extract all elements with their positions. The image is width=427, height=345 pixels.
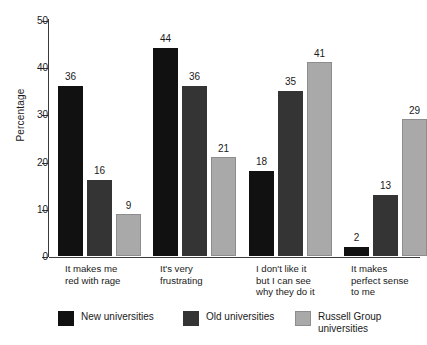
bar: 44 bbox=[153, 48, 178, 256]
bar: 16 bbox=[87, 180, 112, 256]
x-axis-category-label: It makes perfect sense to me bbox=[351, 263, 409, 298]
y-axis-tick-label: 0 bbox=[10, 252, 48, 262]
x-axis-category-label: I don't like it but I can see why they d… bbox=[256, 263, 315, 298]
legend-label: Old universities bbox=[206, 311, 274, 323]
bar: 13 bbox=[373, 195, 398, 256]
y-axis-tick-label: 50 bbox=[10, 16, 48, 26]
dark-gray-swatch bbox=[183, 311, 199, 326]
plot-area: 3644182163635139214129 bbox=[49, 19, 420, 256]
chart-legend: New universitiesOld universitiesRussell … bbox=[58, 311, 418, 341]
y-axis-tick-value: 10 bbox=[26, 205, 48, 215]
legend-item: Old universities bbox=[183, 311, 274, 326]
x-axis-category-label: It's very frustrating bbox=[160, 263, 203, 286]
bar-value-label: 2 bbox=[354, 233, 360, 243]
bar: 21 bbox=[211, 157, 236, 256]
bar-value-label: 18 bbox=[256, 157, 267, 167]
legend-item: New universities bbox=[58, 311, 154, 326]
light-gray-swatch bbox=[295, 311, 311, 326]
bar-value-label: 16 bbox=[94, 166, 105, 176]
y-axis-tick-value: 50 bbox=[26, 16, 48, 26]
bar: 36 bbox=[182, 86, 207, 256]
y-axis-tick-label: 10 bbox=[10, 205, 48, 215]
bar-value-label: 29 bbox=[409, 106, 420, 116]
bar: 35 bbox=[278, 91, 303, 256]
y-axis-tick-label: 40 bbox=[10, 63, 48, 73]
legend-label: Russell Group universities bbox=[318, 311, 381, 334]
bar-value-label: 36 bbox=[65, 72, 76, 82]
bar-value-label: 44 bbox=[160, 34, 171, 44]
bar-value-label: 21 bbox=[218, 144, 229, 154]
y-axis-tick-label: 20 bbox=[10, 158, 48, 168]
scan-artifact-strip bbox=[0, 0, 425, 5]
bar: 18 bbox=[249, 171, 274, 256]
bar: 41 bbox=[307, 62, 332, 256]
y-axis-tick-value: 20 bbox=[26, 158, 48, 168]
bar-value-label: 9 bbox=[126, 201, 132, 211]
bar: 29 bbox=[402, 119, 427, 256]
bar-value-label: 36 bbox=[189, 72, 200, 82]
bar-value-label: 13 bbox=[380, 181, 391, 191]
y-axis-tick-value: 30 bbox=[26, 110, 48, 120]
y-axis-tick-label: 30 bbox=[10, 110, 48, 120]
bar: 36 bbox=[58, 86, 83, 256]
bar: 2 bbox=[344, 247, 369, 256]
y-axis-tick-value: 40 bbox=[26, 63, 48, 73]
x-axis-category-label: It makes me red with rage bbox=[65, 263, 120, 286]
legend-item: Russell Group universities bbox=[295, 311, 381, 334]
y-axis-tick-value: 0 bbox=[26, 252, 48, 262]
black-swatch bbox=[58, 311, 74, 326]
bar: 9 bbox=[116, 214, 141, 256]
bar-value-label: 35 bbox=[285, 77, 296, 87]
bar-value-label: 41 bbox=[314, 49, 325, 59]
x-axis-line bbox=[49, 257, 420, 258]
legend-label: New universities bbox=[81, 311, 154, 323]
